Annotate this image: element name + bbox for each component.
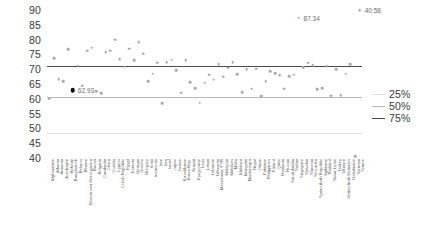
x-axis-labels: AfghanistanAlbaniaArmeniaAzerbaijanBahra… — [47, 159, 362, 229]
data-point — [170, 58, 173, 61]
plot-area: 62.9387.3440.58 — [47, 10, 362, 158]
data-point — [217, 63, 220, 66]
data-point — [241, 91, 244, 94]
data-point — [166, 61, 169, 64]
y-axis: 9085807570656055504540 — [0, 10, 45, 158]
data-point — [90, 46, 93, 49]
data-point — [349, 63, 352, 66]
data-point — [274, 72, 277, 75]
data-point — [311, 64, 314, 67]
data-point — [283, 87, 286, 90]
data-point — [109, 50, 112, 53]
data-point — [175, 69, 178, 72]
data-point — [307, 61, 310, 64]
data-point — [278, 74, 281, 77]
data-point — [208, 73, 211, 76]
y-axis-tick: 80 — [29, 34, 41, 46]
data-point — [53, 57, 56, 60]
data-point — [340, 94, 343, 97]
data-point — [325, 65, 328, 68]
data-point — [104, 51, 107, 54]
legend-label: 75% — [389, 112, 411, 124]
data-point — [156, 61, 159, 64]
data-point — [71, 88, 76, 93]
data-point — [213, 79, 216, 82]
y-axis-tick: 60 — [29, 93, 41, 105]
point-label: 40.58 — [365, 7, 381, 14]
legend-label: 50% — [389, 100, 411, 112]
data-point — [81, 84, 84, 87]
data-point — [67, 48, 70, 51]
data-point — [255, 67, 258, 70]
data-point — [119, 58, 122, 61]
reference-line-25 — [47, 133, 362, 134]
data-point — [194, 87, 197, 90]
data-point — [86, 49, 89, 52]
data-point — [358, 9, 361, 12]
chart-legend: 25%50%75% — [372, 88, 429, 124]
data-point — [222, 75, 225, 78]
legend-line-swatch — [372, 94, 385, 95]
data-point — [354, 155, 357, 158]
data-point — [147, 80, 150, 83]
point-label: 87.34 — [304, 14, 320, 21]
data-point — [264, 80, 267, 83]
data-point — [100, 92, 103, 95]
point-label: 62.93 — [78, 87, 94, 94]
data-point — [137, 41, 140, 44]
data-point — [316, 88, 319, 91]
data-point — [48, 98, 51, 101]
data-point — [114, 39, 117, 42]
legend-item: 50% — [372, 100, 429, 112]
data-point — [203, 82, 206, 85]
data-point — [57, 78, 60, 81]
y-axis-tick: 70 — [29, 63, 41, 75]
reference-line-75 — [47, 66, 362, 67]
y-axis-tick: 50 — [29, 122, 41, 134]
data-point — [335, 68, 338, 71]
data-point — [142, 53, 145, 56]
data-point — [250, 87, 253, 90]
data-point — [184, 59, 187, 62]
legend-label: 25% — [389, 88, 411, 100]
data-point — [227, 66, 230, 69]
legend-item: 75% — [372, 112, 429, 124]
data-point — [180, 91, 183, 94]
data-point — [302, 66, 305, 69]
data-point — [95, 90, 98, 93]
data-point — [246, 68, 249, 71]
y-axis-tick: 55 — [29, 108, 41, 120]
data-point — [231, 61, 234, 64]
data-point — [151, 72, 154, 75]
data-point — [128, 47, 131, 50]
data-point — [344, 72, 347, 75]
data-point — [123, 65, 126, 68]
y-axis-tick: 75 — [29, 48, 41, 60]
reference-line-50 — [47, 97, 362, 98]
data-point — [133, 59, 136, 62]
y-axis-tick: 90 — [29, 4, 41, 16]
data-point — [293, 74, 296, 77]
data-point — [297, 17, 300, 20]
data-point — [189, 81, 192, 84]
data-point — [62, 80, 65, 83]
data-point — [330, 95, 333, 98]
y-axis-tick: 65 — [29, 78, 41, 90]
legend-line-swatch — [372, 106, 385, 107]
y-axis-tick: 40 — [29, 152, 41, 164]
data-point — [236, 73, 239, 76]
data-point — [321, 87, 324, 90]
y-axis-tick: 45 — [29, 137, 41, 149]
data-point — [199, 101, 202, 104]
y-axis-tick: 85 — [29, 19, 41, 31]
chart-container: 9085807570656055504540 62.9387.3440.58 A… — [0, 0, 429, 229]
data-point — [288, 75, 291, 78]
data-point — [260, 95, 263, 98]
data-point — [161, 102, 164, 105]
legend-line-swatch — [372, 118, 385, 119]
x-axis-label: Yemen — [361, 159, 366, 172]
data-point — [269, 70, 272, 73]
legend-item: 25% — [372, 88, 429, 100]
data-point — [76, 64, 79, 67]
